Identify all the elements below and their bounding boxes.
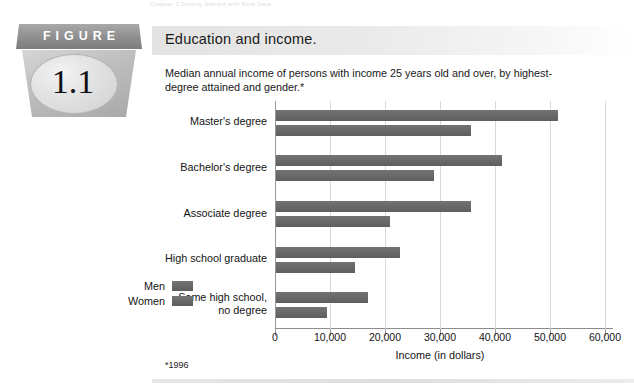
x-tick-label: 60,000 (589, 331, 621, 343)
category-label: High school graduate (17, 252, 267, 265)
figure-footnote: *1996 (165, 360, 189, 370)
figure-title: Education and income. (165, 31, 317, 47)
running-head: Chapter 1 Getting Started with Real Data (150, 1, 271, 7)
bar-men-1 (276, 155, 502, 166)
x-tick-label: 10,000 (314, 331, 346, 343)
bar-women-1 (276, 170, 434, 181)
x-tick-label: 50,000 (534, 331, 566, 343)
figure-title-bar: Education and income. (152, 26, 634, 55)
x-tick-label: 30,000 (424, 331, 456, 343)
bar-men-2 (276, 201, 471, 212)
x-axis-title: Income (in dollars) (275, 349, 605, 361)
legend-swatch (172, 281, 193, 291)
x-tick-label: 20,000 (369, 331, 401, 343)
chart-legend: MenWomen (88, 278, 193, 308)
figure-banner-label: FIGURE (16, 29, 142, 43)
bar-men-4 (276, 292, 368, 303)
bar-women-3 (276, 262, 355, 273)
category-label: Associate degree (17, 207, 267, 220)
category-label-line: Associate degree (17, 207, 267, 220)
category-label-line: High school graduate (17, 252, 267, 265)
bar-women-0 (276, 125, 471, 136)
x-tick-label: 40,000 (479, 331, 511, 343)
category-label-line: Bachelor's degree (17, 161, 267, 174)
bar-men-3 (276, 247, 400, 258)
legend-swatch (172, 296, 193, 306)
grid-line (550, 101, 551, 329)
legend-item-women: Women (88, 293, 193, 308)
grid-line (605, 101, 606, 329)
figure-page: Chapter 1 Getting Started with Real Data… (0, 0, 634, 386)
bar-women-4 (276, 307, 327, 318)
legend-label: Men (144, 280, 165, 292)
x-tick-label: 0 (272, 331, 278, 343)
category-label: Bachelor's degree (17, 161, 267, 174)
figure-banner: FIGURE (16, 24, 142, 49)
bar-women-2 (276, 216, 390, 227)
figure-caption: Median annual income of persons with inc… (165, 66, 585, 94)
x-axis-line (275, 328, 613, 329)
legend-item-men: Men (88, 278, 193, 293)
legend-label: Women (128, 295, 165, 307)
plot-area (275, 101, 605, 329)
grid-line (495, 101, 496, 329)
category-label: Master's degree (17, 115, 267, 128)
bar-men-0 (276, 110, 558, 121)
bar-chart: Master's degreeBachelor's degreeAssociat… (0, 95, 634, 365)
category-label-line: Master's degree (17, 115, 267, 128)
bottom-rule (152, 379, 634, 383)
